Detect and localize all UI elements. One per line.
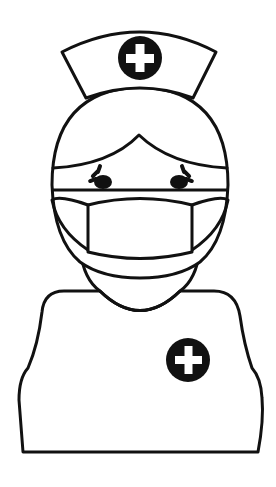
cap-plus-cross-icon	[118, 36, 162, 80]
chest-plus-cross-icon	[166, 338, 210, 382]
nurse-drawing	[0, 0, 276, 487]
torso	[19, 291, 263, 452]
mask-body	[88, 199, 192, 259]
nurse-cap-icon	[62, 32, 216, 98]
nurse-illustration: Nurse wearing face mask	[0, 0, 276, 487]
